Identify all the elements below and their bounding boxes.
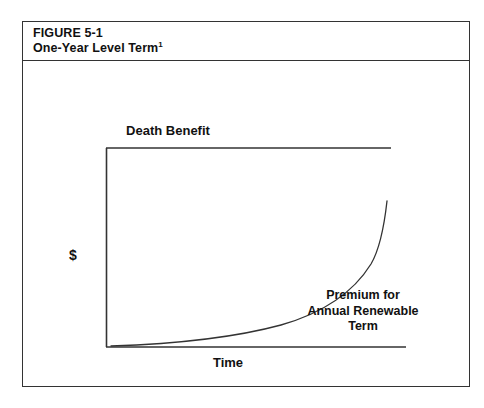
figure-title-line: One-Year Level Term1 [33,41,469,56]
premium-annotation-line-1: Premium for [293,288,433,304]
footnote-marker: 1 [158,40,163,49]
premium-annotation: Premium for Annual Renewable Term [293,288,433,335]
y-axis-label: $ [53,247,93,263]
figure-number: FIGURE 5-1 [33,26,469,41]
figure-header: FIGURE 5-1 One-Year Level Term1 [23,22,469,61]
premium-annotation-line-3: Term [293,319,433,335]
figure-title: One-Year Level Term [33,41,158,55]
figure-outer-box: FIGURE 5-1 One-Year Level Term1 Death Be… [22,21,470,387]
chart-plot-area: Death Benefit $ Time Premium for Annual … [23,61,469,388]
death-benefit-label: Death Benefit [23,123,313,138]
chart-svg [23,61,471,388]
premium-annotation-line-2: Annual Renewable [293,304,433,320]
figure-root: FIGURE 5-1 One-Year Level Term1 Death Be… [0,0,484,408]
x-axis-label: Time [153,355,303,370]
